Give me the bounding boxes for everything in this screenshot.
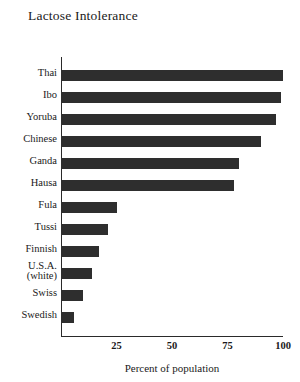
bar [61, 158, 239, 169]
bar-category-label: Hausa [0, 178, 57, 188]
bar-row: Fula [61, 202, 283, 213]
bar [61, 180, 234, 191]
bar-category-label-line1: Swedish [21, 309, 57, 320]
x-tick-label: 100 [263, 340, 300, 351]
bar-category-label-line1: Thai [38, 67, 57, 78]
x-tick-label: 25 [97, 340, 137, 351]
lactose-intolerance-bar-chart: Lactose Intolerance ThaiIboYorubaChinese… [0, 0, 300, 382]
bar-row: Swiss [61, 290, 283, 301]
x-tick-label: 50 [152, 340, 192, 351]
bar-category-label: U.S.A.(white) [0, 261, 57, 281]
bar-category-label: Tussi [0, 222, 57, 232]
bar [61, 202, 117, 213]
bar-category-label: Ganda [0, 156, 57, 166]
bar [61, 92, 281, 103]
chart-title: Lactose Intolerance [28, 8, 138, 24]
bar-category-label-line1: Yoruba [27, 111, 57, 122]
bar-row: Chinese [61, 136, 283, 147]
bar [61, 114, 276, 125]
bar [61, 224, 108, 235]
x-axis-line [61, 336, 283, 337]
bar-row: Yoruba [61, 114, 283, 125]
bar [61, 290, 83, 301]
bar-category-label: Swiss [0, 288, 57, 298]
bar-row: Ibo [61, 92, 283, 103]
bar-row: Swedish [61, 312, 283, 323]
bar-category-label: Thai [0, 68, 57, 78]
bar-row: Thai [61, 70, 283, 81]
bar [61, 70, 283, 81]
x-tick-label: 75 [208, 340, 248, 351]
bar-category-label-line1: Swiss [32, 287, 57, 298]
bar-category-label: Chinese [0, 134, 57, 144]
bar [61, 268, 92, 279]
bar-row: Ganda [61, 158, 283, 169]
bar-row: Tussi [61, 224, 283, 235]
bar-category-label-line2: (white) [0, 271, 57, 281]
bar-category-label: Yoruba [0, 112, 57, 122]
bar-row: U.S.A.(white) [61, 268, 283, 279]
bar-category-label-line1: Fula [38, 199, 57, 210]
bar-category-label-line1: Finnish [25, 243, 57, 254]
bar [61, 246, 99, 257]
bar-row: Hausa [61, 180, 283, 191]
bar-category-label: Finnish [0, 244, 57, 254]
bar-category-label-line1: Ibo [43, 89, 57, 100]
bar-category-label: Swedish [0, 310, 57, 320]
bar-category-label: Ibo [0, 90, 57, 100]
bar-row: Finnish [61, 246, 283, 257]
bar [61, 312, 74, 323]
x-axis-title: Percent of population [61, 362, 283, 374]
bar-category-label-line1: Tussi [35, 221, 57, 232]
bar [61, 136, 261, 147]
bar-category-label-line1: Hausa [31, 177, 57, 188]
bar-category-label: Fula [0, 200, 57, 210]
bar-category-label-line1: Ganda [30, 155, 57, 166]
bar-category-label-line1: Chinese [23, 133, 57, 144]
plot-area: ThaiIboYorubaChineseGandaHausaFulaTussiF… [61, 58, 283, 336]
